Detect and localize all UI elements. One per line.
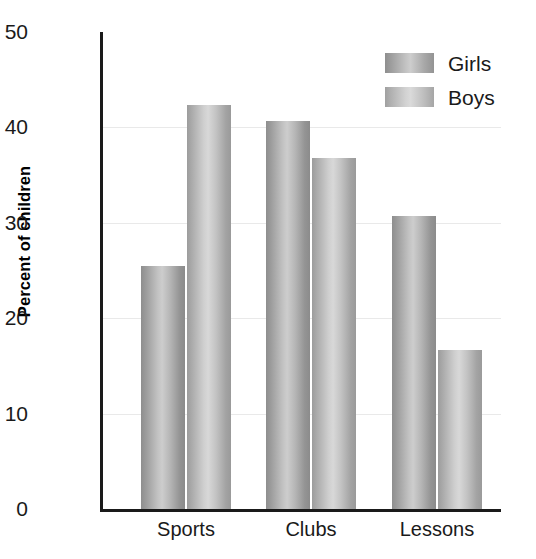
y-tick-label: 50 <box>0 21 28 42</box>
y-tick-label: 0 <box>0 498 28 519</box>
legend-swatch-icon-girls <box>385 53 434 73</box>
bar-chart-figure: Percent of children 50 40 30 20 10 0 Spo… <box>0 0 536 559</box>
bar-clubs-girls <box>266 121 310 509</box>
x-tick-label-lessons: Lessons <box>362 519 512 539</box>
legend: Girls Boys <box>385 48 495 116</box>
legend-label-girls: Girls <box>448 53 491 74</box>
bar-lessons-girls <box>392 216 436 509</box>
y-tick-label: 10 <box>0 403 28 424</box>
bar-sports-boys <box>187 105 231 509</box>
bar-clubs-boys <box>312 158 356 509</box>
bar-lessons-boys <box>438 350 482 509</box>
legend-swatch-icon-boys <box>385 87 434 107</box>
y-axis-line <box>100 32 103 509</box>
legend-label-boys: Boys <box>448 87 495 108</box>
bar-sports-girls <box>141 266 185 509</box>
x-axis-line <box>100 509 501 512</box>
y-axis-title: Percent of children <box>15 132 34 352</box>
legend-item-boys: Boys <box>385 82 495 112</box>
legend-item-girls: Girls <box>385 48 495 78</box>
